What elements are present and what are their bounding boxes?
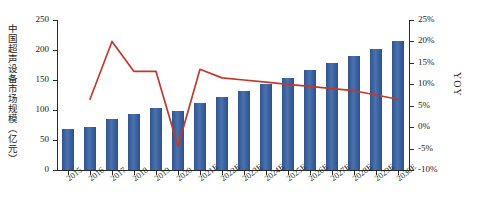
y-axis-right-tick-label: 0% (418, 122, 430, 131)
y-axis-right-tick (410, 84, 414, 85)
plot-area (57, 20, 409, 170)
y-axis-right-tick-label: 15% (418, 58, 435, 67)
y-axis-right-tick-label: 20% (418, 36, 435, 45)
y-axis-right-tick (410, 20, 414, 21)
y-axis-right-tick-label: 25% (418, 15, 435, 24)
y-axis-right-tick-label: 5% (418, 101, 430, 110)
y-axis-left-tick (53, 170, 57, 171)
y-axis-right-tick-label: -5% (418, 144, 433, 153)
y-axis-right-tick-label: -10% (418, 165, 438, 174)
y-axis-left-tick-label: 250 (36, 15, 50, 24)
y-axis-right-label: YOY (452, 72, 463, 97)
y-axis-left-tick-label: 0 (45, 165, 50, 174)
y-axis-right-tick (410, 127, 414, 128)
yoy-line-series (57, 20, 409, 170)
y-axis-left-tick-label: 150 (36, 75, 50, 84)
y-axis-right-tick (410, 106, 414, 107)
y-axis-right-tick-label: 10% (418, 79, 435, 88)
y-axis-right-tick (410, 149, 414, 150)
y-axis-right-tick (410, 41, 414, 42)
y-axis-right-tick (410, 63, 414, 64)
y-axis-left-tick-label: 200 (36, 45, 50, 54)
y-axis-left-label: 中国超声设备市场规模（亿元） (4, 14, 18, 174)
y-axis-left-tick-label: 50 (40, 135, 49, 144)
y-axis-left-tick-label: 100 (36, 105, 50, 114)
chart-container: 中国超声设备市场规模（亿元） YOY 050100150200250 -10%-… (0, 0, 477, 223)
